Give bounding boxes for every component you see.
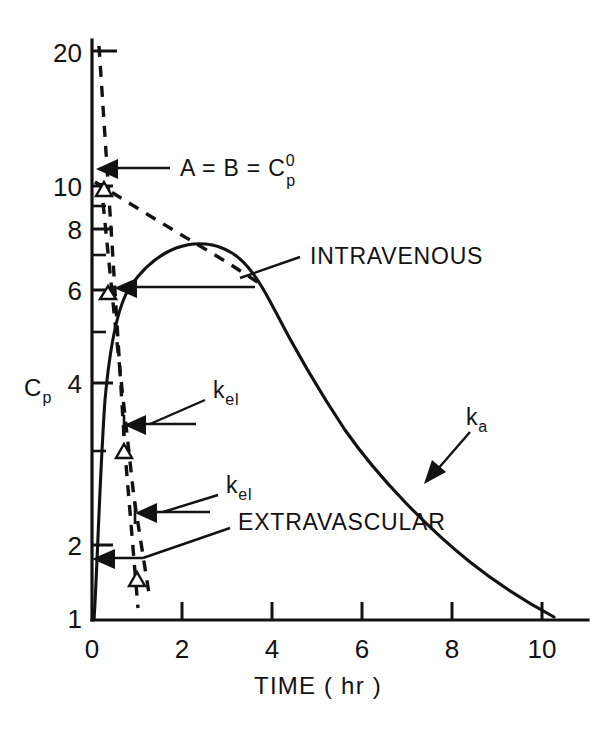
y-tick-label-10: 10 — [53, 172, 82, 202]
annotations-group — [92, 159, 470, 569]
x-tick-label-4: 4 — [265, 634, 279, 664]
annotation-cp-zero-main: A = B = C — [180, 155, 286, 181]
y-tick-labels-group: 20 10 8 6 4 2 1 — [53, 38, 82, 634]
y-axis-title-base: C — [24, 374, 43, 401]
x-axis-title: TIME ( hr ) — [254, 672, 382, 699]
residual-line-a — [99, 46, 138, 608]
annotation-cp-zero-sup: 0 — [286, 152, 296, 169]
annotation-kel-lower-base: k — [226, 472, 238, 498]
intravenous-dashed-line — [95, 182, 262, 285]
x-ticks-group — [182, 602, 542, 620]
y-tick-label-6: 6 — [68, 276, 82, 306]
annotation-ka: ka — [466, 404, 488, 435]
annotation-cp-zero: A = B = C0p — [180, 152, 296, 189]
plot-canvas: 20 10 8 6 4 2 1 0 2 4 6 8 10 Cp TIME ( h… — [0, 0, 616, 729]
x-tick-label-8: 8 — [445, 634, 459, 664]
x-tick-labels-group: 0 2 4 6 8 10 — [85, 634, 557, 664]
kel-lower-leader — [163, 495, 218, 512]
annotation-extravascular: EXTRAVASCULAR — [238, 509, 446, 535]
annotation-labels-group: A = B = C0p INTRAVENOUS kel kel EXTRAVAS… — [180, 152, 488, 535]
y-tick-label-2: 2 — [68, 531, 82, 561]
annotation-kel-lower-sub: el — [238, 486, 252, 503]
pharmacokinetic-plot-figure: 20 10 8 6 4 2 1 0 2 4 6 8 10 Cp TIME ( h… — [0, 0, 616, 729]
x-tick-label-2: 2 — [175, 634, 189, 664]
y-tick-label-8: 8 — [68, 215, 82, 245]
annotation-cp-zero-sub: p — [286, 172, 296, 189]
annotation-kel-upper-base: k — [213, 377, 225, 403]
y-tick-label-1: 1 — [68, 604, 82, 634]
y-axis-title: Cp — [24, 374, 53, 406]
ka-leader — [437, 432, 470, 470]
x-tick-label-6: 6 — [355, 634, 369, 664]
dashed-curves-group — [95, 46, 262, 608]
residual-line-b — [101, 183, 150, 600]
kel-lower-arrowhead — [135, 503, 157, 523]
annotation-kel-upper: kel — [213, 377, 239, 408]
x-tick-label-10: 10 — [528, 634, 557, 664]
y-axis-title-sub: p — [43, 389, 53, 406]
annotation-intravenous: INTRAVENOUS — [310, 243, 483, 269]
kel-upper-leader — [150, 400, 205, 424]
x-tick-label-0: 0 — [85, 634, 99, 664]
annotation-kel-upper-sub: el — [225, 391, 239, 408]
annotation-ka-sub: a — [478, 418, 488, 435]
y-tick-label-20: 20 — [53, 38, 82, 68]
annotation-kel-lower: kel — [226, 472, 252, 503]
triangle-marker-4 — [129, 572, 145, 586]
y-tick-label-4: 4 — [68, 369, 82, 399]
extravascular-leader — [143, 528, 230, 558]
annotation-ka-base: k — [466, 404, 478, 430]
